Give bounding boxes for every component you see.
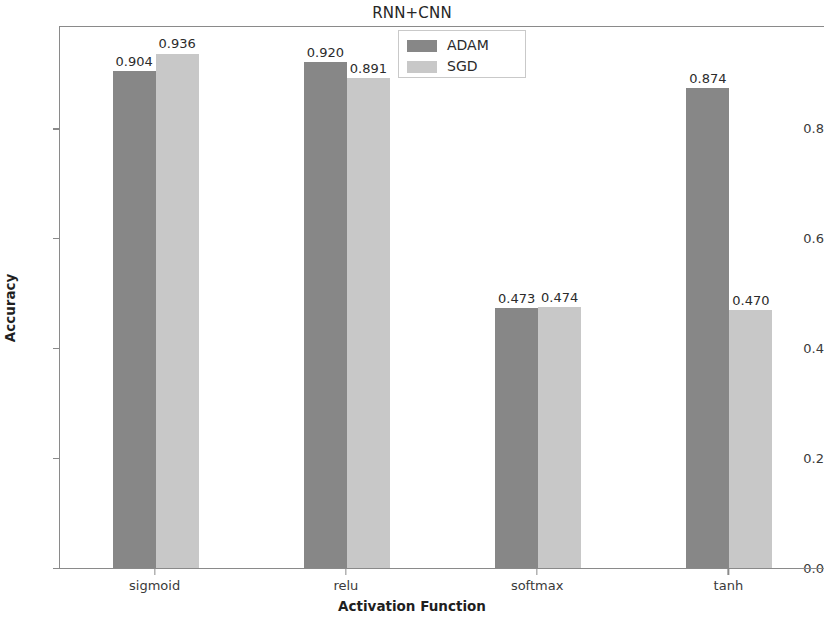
- chart-title: RNN+CNN: [0, 4, 824, 22]
- legend-label: SGD: [447, 58, 478, 74]
- legend-swatch-icon: [407, 40, 437, 52]
- bar-value-label: 0.936: [159, 36, 196, 51]
- x-tick-label: softmax: [457, 578, 617, 593]
- bar-tanh-adam: [686, 88, 729, 568]
- bar-value-label: 0.904: [116, 54, 153, 69]
- bar-softmax-adam: [495, 308, 538, 568]
- bar-value-label: 0.474: [541, 290, 578, 305]
- bar-value-label: 0.470: [732, 293, 769, 308]
- bar-sigmoid-sgd: [156, 54, 199, 569]
- bar-value-label: 0.874: [689, 71, 726, 86]
- x-axis-baseline: [59, 568, 824, 569]
- legend-swatch-icon: [407, 61, 437, 73]
- x-tick-mark: [728, 569, 729, 575]
- x-tick-mark: [536, 569, 537, 575]
- x-axis-label: Activation Function: [0, 598, 824, 614]
- legend-label: ADAM: [447, 37, 489, 53]
- x-tick-label: tanh: [648, 578, 808, 593]
- bar-sigmoid-adam: [113, 71, 156, 568]
- x-tick-mark: [345, 569, 346, 575]
- bar-chart-figure: RNN+CNN Accuracy Activation Function 0.0…: [0, 0, 824, 617]
- y-axis-label: Accuracy: [2, 274, 18, 343]
- bar-relu-sgd: [347, 78, 390, 568]
- bar-relu-adam: [304, 62, 347, 568]
- x-tick-label: relu: [266, 578, 426, 593]
- bar-tanh-sgd: [729, 310, 772, 568]
- bar-value-label: 0.473: [498, 291, 535, 306]
- bar-value-label: 0.920: [307, 45, 344, 60]
- x-tick-label: sigmoid: [75, 578, 235, 593]
- plot-area: 0.9040.9360.9200.8910.4730.4740.8740.470: [59, 26, 824, 568]
- chart-legend: ADAMSGD: [398, 30, 526, 78]
- bar-softmax-sgd: [538, 307, 581, 568]
- bar-value-label: 0.891: [350, 61, 387, 76]
- x-tick-mark: [154, 569, 155, 575]
